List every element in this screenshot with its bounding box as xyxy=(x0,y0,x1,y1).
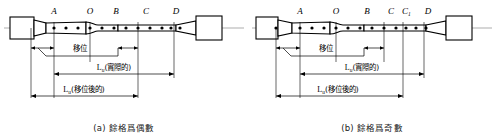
shifted-length-label-b: Lu(移位後的) xyxy=(317,84,359,95)
point-label-D-b: D xyxy=(424,6,432,16)
actual-suffix-a: (實際的) xyxy=(104,62,131,72)
point-label-D-a: D xyxy=(172,6,180,16)
shifted-dimension-a xyxy=(31,94,138,98)
point-label-C1-b: C1 xyxy=(402,6,411,17)
caption-panel-a: (a) 餘格爲偶數 xyxy=(0,121,248,133)
shifted-suffix-b: (移位後的) xyxy=(325,84,359,94)
shift-label-a: 移位 xyxy=(73,43,88,53)
panel-a-even-remainder: A O B C D 移位 xyxy=(0,0,248,137)
specimen-outline-b xyxy=(256,16,472,40)
point-labels-b: A O B C C1 D xyxy=(296,6,432,17)
point-labels-a: A O B C D xyxy=(50,6,180,16)
point-label-A-a: A xyxy=(50,6,57,16)
point-label-O-b: O xyxy=(333,6,340,16)
shifted-length-label-a: Lu(移位後的) xyxy=(63,84,105,95)
panel-b-diagram: A O B C C1 D 移位 xyxy=(248,0,496,137)
point-label-B-a: B xyxy=(113,6,119,16)
specimen-outline-a xyxy=(10,16,222,40)
tensile-specimen-gauge-shift-figure: A O B C D 移位 xyxy=(0,0,496,137)
point-label-B-b: B xyxy=(364,6,370,16)
panel-b-odd-remainder: A O B C C1 D 移位 xyxy=(248,0,496,137)
shifted-dimension-b xyxy=(276,94,403,98)
point-label-O-a: O xyxy=(87,6,94,16)
actual-dimension-a xyxy=(54,72,174,76)
actual-suffix-b: (實際的) xyxy=(352,62,379,72)
point-label-C-b: C xyxy=(388,6,395,16)
caption-panel-b: (b) 餘格爲奇數 xyxy=(248,121,496,133)
actual-dimension-b xyxy=(300,72,424,76)
c1-subscript-b: 1 xyxy=(408,11,411,17)
shift-label-b: 移位 xyxy=(319,43,334,53)
panel-a-diagram: A O B C D 移位 xyxy=(0,0,248,137)
point-label-A-b: A xyxy=(296,6,303,16)
actual-length-label-b: Lu(實際的) xyxy=(345,62,380,73)
shifted-suffix-a: (移位後的) xyxy=(71,84,105,94)
point-label-C-a: C xyxy=(143,6,150,16)
actual-length-label-a: Lu(實際的) xyxy=(97,62,132,73)
